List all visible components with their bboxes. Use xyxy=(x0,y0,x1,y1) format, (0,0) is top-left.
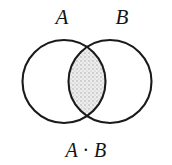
set-b-label: B xyxy=(62,7,172,28)
intersection-label: A · B xyxy=(0,140,172,160)
venn-diagram-figure: A B A · B xyxy=(0,0,172,165)
